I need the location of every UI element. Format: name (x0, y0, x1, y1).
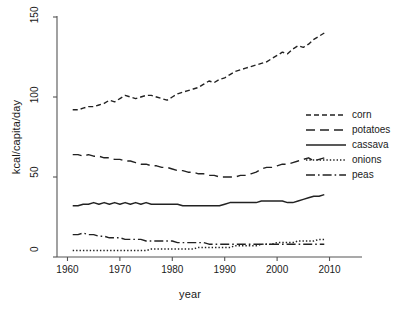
chart-container: kcal/capita/day year 050100150 196019701… (0, 0, 402, 309)
legend-swatch-potatoes-icon (306, 124, 346, 136)
y-axis-title: kcal/capita/day (10, 77, 22, 197)
series-line-cassava (73, 195, 325, 206)
legend-label-potatoes: potatoes (346, 124, 390, 135)
x-tick-label: 2010 (313, 264, 347, 275)
series-line-onions (73, 239, 325, 250)
y-tick-label: 50 (29, 167, 40, 197)
legend-item-potatoes[interactable]: potatoes (306, 122, 400, 137)
legend-label-corn: corn (346, 109, 371, 120)
y-tick-label: 0 (29, 247, 40, 277)
legend-label-peas: peas (346, 169, 374, 180)
series-line-potatoes (73, 155, 325, 177)
data-series-group (73, 33, 325, 251)
x-tick-label: 1990 (208, 264, 242, 275)
legend-item-peas[interactable]: peas (306, 167, 400, 182)
series-line-corn (73, 33, 325, 110)
x-axis-title: year (150, 288, 230, 300)
legend-swatch-peas-icon (306, 169, 346, 181)
legend-item-cassava[interactable]: cassava (306, 137, 400, 152)
legend-swatch-corn-icon (306, 109, 346, 121)
legend-item-onions[interactable]: onions (306, 152, 400, 167)
x-tick-label: 1960 (50, 264, 84, 275)
x-tick-label: 2000 (260, 264, 294, 275)
legend-label-onions: onions (346, 154, 381, 165)
legend-swatch-onions-icon (306, 154, 346, 166)
legend-swatch-cassava-icon (306, 139, 346, 151)
legend-label-cassava: cassava (346, 139, 389, 150)
x-tick-label: 1970 (103, 264, 137, 275)
y-tick-label: 150 (29, 7, 40, 37)
x-tick-label: 1980 (155, 264, 189, 275)
chart-legend: cornpotatoescassavaonionspeas (306, 107, 400, 182)
legend-item-corn[interactable]: corn (306, 107, 400, 122)
y-tick-label: 100 (29, 87, 40, 117)
